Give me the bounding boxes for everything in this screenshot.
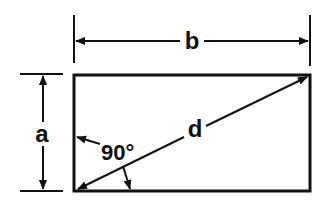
diagonal-label: d xyxy=(188,115,203,142)
angle-label: 90° xyxy=(101,140,134,165)
diagram-canvas: b a d 90° xyxy=(0,0,331,202)
diagonal-dimension: d xyxy=(78,77,307,189)
width-dimension: b xyxy=(74,15,310,66)
height-label: a xyxy=(35,120,49,147)
right-angle-annotation: 90° xyxy=(77,137,134,189)
width-label: b xyxy=(185,27,200,54)
height-dimension: a xyxy=(20,74,63,191)
